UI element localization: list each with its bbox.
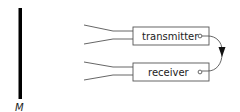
transmitter-block: transmitter — [84, 25, 209, 45]
receiver-wire-lower — [84, 75, 133, 80]
transmitter-wire-upper — [84, 25, 133, 31]
mirror-bar — [19, 8, 23, 99]
receiver-wire-upper — [84, 62, 133, 67]
mirror-label: M — [15, 102, 24, 112]
arrowhead-down-icon — [219, 47, 226, 57]
receiver-label: receiver — [148, 67, 190, 78]
transmitter-label: transmitter — [142, 31, 199, 42]
receiver-block: receiver — [84, 62, 209, 81]
diagram-canvas: M transmitter receiver — [0, 0, 240, 112]
transmitter-wire-lower — [84, 39, 133, 44]
mirror: M — [15, 8, 24, 112]
transmitter-output-port — [198, 34, 202, 38]
receiver-input-port — [198, 70, 202, 74]
